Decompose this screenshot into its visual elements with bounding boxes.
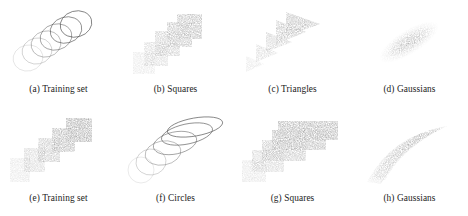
panel-a-caption: (a) Training set bbox=[29, 84, 87, 95]
panel-b: (b) Squares bbox=[117, 0, 234, 108]
ellipse-chain-icon bbox=[0, 0, 117, 84]
plot-d-gaussians bbox=[351, 0, 468, 84]
plot-e-training-set bbox=[0, 108, 117, 192]
panel-g: (g) Squares bbox=[234, 108, 351, 216]
square-staircase-icon bbox=[117, 0, 234, 84]
gaussian-arc-icon bbox=[351, 108, 468, 192]
panel-h-caption: (h) Gaussians bbox=[383, 193, 435, 204]
panel-c: (c) Triangles bbox=[234, 0, 351, 108]
plot-f-circles bbox=[117, 108, 234, 192]
figure-row-bottom: (e) Training set (f) Circles bbox=[0, 108, 468, 216]
gaussian-cloud-icon bbox=[351, 0, 468, 84]
triangle-chain-icon bbox=[234, 0, 351, 84]
panel-d: (d) Gaussians bbox=[351, 0, 468, 108]
panel-a: (a) Training set bbox=[0, 0, 117, 108]
plot-g-squares bbox=[234, 108, 351, 192]
panel-g-caption: (g) Squares bbox=[271, 193, 315, 204]
figure-row-top: (a) Training set bbox=[0, 0, 468, 108]
panel-c-caption: (c) Triangles bbox=[268, 84, 317, 95]
panel-e: (e) Training set bbox=[0, 108, 117, 216]
square-staircase-icon bbox=[0, 108, 117, 192]
panel-h: (h) Gaussians bbox=[351, 108, 468, 216]
panel-e-caption: (e) Training set bbox=[29, 193, 87, 204]
panel-b-caption: (b) Squares bbox=[154, 84, 198, 95]
figure-container: (a) Training set bbox=[0, 0, 468, 216]
rect-staircase-icon bbox=[234, 108, 351, 192]
panel-f-caption: (f) Circles bbox=[156, 193, 195, 204]
plot-h-gaussians bbox=[351, 108, 468, 192]
circle-chain-icon bbox=[117, 108, 234, 192]
panel-f: (f) Circles bbox=[117, 108, 234, 216]
plot-b-squares bbox=[117, 0, 234, 84]
plot-c-triangles bbox=[234, 0, 351, 84]
panel-d-caption: (d) Gaussians bbox=[383, 84, 435, 95]
plot-a-training-set bbox=[0, 0, 117, 84]
